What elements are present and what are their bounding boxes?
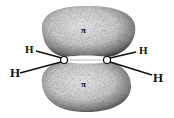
- pi-bond-diagram: [0, 0, 174, 118]
- hydrogen-label-lower-left: H: [10, 66, 20, 79]
- top-pi-lobe: [42, 6, 135, 57]
- bottom-pi-lobe: [42, 62, 131, 112]
- pi-label-bottom: π: [81, 80, 86, 89]
- hydrogen-label-upper-left: H: [25, 44, 34, 55]
- pi-label-top: π: [81, 26, 86, 35]
- hydrogen-label-upper-right: H: [139, 45, 148, 56]
- carbon-atom-right: [104, 57, 111, 64]
- carbon-atom-left: [61, 57, 68, 64]
- hydrogen-label-lower-right: H: [153, 71, 163, 84]
